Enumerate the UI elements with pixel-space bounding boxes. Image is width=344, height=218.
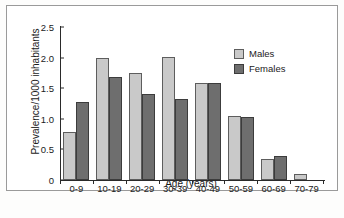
bar-males <box>228 116 241 180</box>
x-axis-tick-label: 30-39 <box>163 183 187 194</box>
y-axis-title: Prevalence/1000 inhabitants <box>30 17 41 167</box>
x-axis-tick-label: 20-29 <box>130 183 154 194</box>
y-axis-tick-label: 0.5 <box>41 144 60 155</box>
bar-pair <box>126 27 159 180</box>
x-axis-tickmark <box>126 180 127 184</box>
bar-group <box>126 27 159 180</box>
bar-females <box>241 117 254 180</box>
bar-pair <box>290 27 323 180</box>
bar-males <box>96 58 109 180</box>
bar-males <box>63 132 76 180</box>
chart-frame: Prevalence/1000 inhabitants Age (years) … <box>6 5 338 191</box>
legend-item-females: Females <box>234 63 285 74</box>
bar-group <box>93 27 126 180</box>
bar-males <box>162 57 175 180</box>
bar-females <box>109 77 122 180</box>
x-axis-tickmark <box>290 180 291 184</box>
x-axis-tickmark <box>93 180 94 184</box>
x-axis-tick-label: 40-49 <box>196 183 220 194</box>
bar-pair <box>192 27 225 180</box>
chart-figure: Prevalence/1000 inhabitants Age (years) … <box>0 0 344 218</box>
x-axis-line <box>60 180 325 181</box>
bar-males <box>195 83 208 180</box>
bar-pair <box>93 27 126 180</box>
x-axis-tickmark <box>224 180 225 184</box>
legend-swatch-females-icon <box>234 64 244 74</box>
bar-females <box>175 99 188 180</box>
bar-males <box>294 174 307 180</box>
legend-swatch-males-icon <box>234 49 244 59</box>
bar-females <box>274 156 287 180</box>
bar-females <box>208 83 221 180</box>
x-axis-tickmark <box>60 180 61 184</box>
x-axis-tick-label: 60-69 <box>262 183 286 194</box>
chart-legend: Males Females <box>234 48 285 78</box>
bar-pair <box>60 27 93 180</box>
bar-pair <box>159 27 192 180</box>
y-axis-tick-label: 2.5 <box>41 22 60 33</box>
y-axis-tick-label: 1.5 <box>41 83 60 94</box>
x-axis-tick-label: 70-79 <box>294 183 318 194</box>
x-axis-tick-label: 10-19 <box>97 183 121 194</box>
y-axis-tick-label: 0 <box>49 175 60 186</box>
x-axis-tickmark <box>257 180 258 184</box>
x-axis-tickmark <box>323 180 324 184</box>
bar-group <box>60 27 93 180</box>
bar-group <box>159 27 192 180</box>
x-axis-tickmark <box>159 180 160 184</box>
bar-males <box>129 73 142 180</box>
legend-label-males: Males <box>249 48 274 59</box>
x-axis-tickmark <box>192 180 193 184</box>
legend-label-females: Females <box>249 63 285 74</box>
bar-females <box>76 102 89 180</box>
bar-group <box>290 27 323 180</box>
x-axis-tick-label: 50-59 <box>229 183 253 194</box>
y-axis-tick-label: 2.0 <box>41 52 60 63</box>
bar-group <box>192 27 225 180</box>
scan-artifact-bottom-text <box>10 196 334 214</box>
legend-item-males: Males <box>234 48 285 59</box>
x-axis-tick-label: 0-9 <box>70 183 84 194</box>
bar-males <box>261 159 274 180</box>
y-axis-tick-label: 1.0 <box>41 113 60 124</box>
bar-females <box>142 94 155 180</box>
